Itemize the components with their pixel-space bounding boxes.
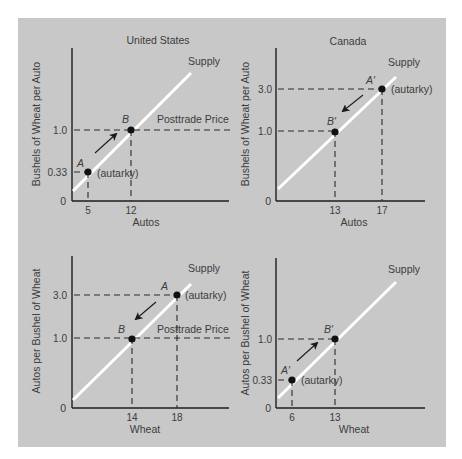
autarky-label: (autarky) — [97, 167, 138, 179]
arrow-icon — [343, 95, 363, 111]
panel-canada-wheat: Autos per Bushel of Wheat 0 1.0 0.33 6 1… — [239, 258, 425, 435]
point-b-prime-label: B′ — [327, 115, 337, 127]
x-tick-label: 5 — [85, 205, 91, 216]
x-axis-label: Wheat — [130, 423, 160, 435]
point-a-label: A — [76, 157, 84, 169]
supply-diagram: United States Bushels of Wheat per Auto … — [0, 0, 462, 459]
point-b-label: B — [122, 113, 129, 125]
y-axis-label: Autos per Bushel of Wheat — [30, 268, 42, 393]
point-b-prime — [331, 128, 338, 135]
y-tick-label: 1.0 — [53, 125, 67, 136]
y-axis-label: Bushels of Wheat per Auto — [30, 62, 42, 186]
y-tick-label: 3.0 — [258, 84, 272, 95]
origin-label: 0 — [60, 195, 66, 207]
y-tick-label: 3.0 — [53, 290, 67, 301]
point-b — [127, 126, 134, 133]
point-b-prime — [331, 335, 338, 342]
autarky-label: (autarky) — [185, 289, 226, 301]
y-axis-label: Bushels of Wheat per Auto — [239, 62, 251, 186]
point-a — [84, 168, 91, 175]
point-a-prime — [288, 376, 295, 383]
x-tick-label: 13 — [329, 412, 341, 423]
arrow-icon — [136, 302, 156, 319]
x-tick-label: 17 — [376, 205, 388, 216]
supply-label: Supply — [388, 263, 421, 275]
y-tick-label: 1.0 — [258, 126, 272, 137]
origin-label: 0 — [60, 402, 66, 414]
autarky-label: (autarky) — [391, 83, 432, 95]
y-tick-label: 0.33 — [48, 167, 68, 178]
point-a-label: A — [160, 280, 168, 292]
x-axis-label: Wheat — [339, 423, 369, 435]
x-tick-label: 18 — [171, 412, 183, 423]
y-tick-label: 1.0 — [258, 334, 272, 345]
x-tick-label: 12 — [125, 205, 137, 216]
x-axis-label: Autos — [341, 216, 368, 228]
panel-title: Canada — [330, 35, 367, 47]
y-tick-label: 1.0 — [53, 333, 67, 344]
panel-us-autos: United States Bushels of Wheat per Auto … — [30, 34, 232, 228]
x-tick-label: 14 — [126, 412, 138, 423]
panel-title: United States — [126, 34, 189, 46]
point-b-label: B — [118, 323, 125, 335]
x-tick-label: 6 — [289, 412, 295, 423]
point-b-prime-label: B′ — [324, 323, 334, 335]
point-a-prime-label: A′ — [280, 364, 291, 376]
arrow-icon — [297, 343, 317, 361]
point-a-prime — [378, 85, 385, 92]
y-tick-label: 0.33 — [253, 375, 273, 386]
point-a — [173, 291, 180, 298]
posttrade-price-label: Posttrade Price — [157, 113, 229, 125]
origin-label: 0 — [265, 195, 271, 207]
x-tick-label: 13 — [329, 205, 341, 216]
panel-us-wheat: Autos per Bushel of Wheat 0 3.0 1.0 14 1… — [30, 256, 232, 435]
supply-label: Supply — [188, 55, 221, 67]
autarky-label: (autarky) — [301, 374, 342, 386]
posttrade-price-label: Posttrade Price — [157, 323, 229, 335]
x-axis-label: Autos — [133, 216, 160, 228]
supply-label: Supply — [388, 56, 421, 68]
origin-label: 0 — [265, 402, 271, 414]
point-a-prime-label: A′ — [365, 74, 376, 86]
supply-label: Supply — [188, 262, 221, 274]
y-axis-label: Autos per Bushel of Wheat — [239, 270, 251, 395]
panel-canada-autos: Canada Bushels of Wheat per Auto 0 3.0 1… — [239, 35, 432, 228]
point-b — [128, 335, 135, 342]
